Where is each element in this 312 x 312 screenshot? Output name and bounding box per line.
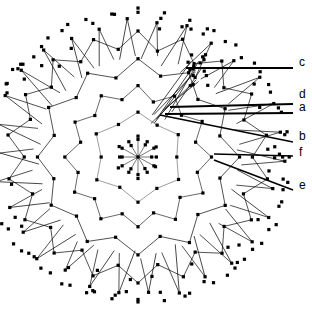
dot-marker [205, 74, 208, 77]
dot-marker [14, 216, 17, 219]
dot-marker [288, 155, 291, 158]
dot-marker [156, 124, 159, 127]
dot-marker [16, 67, 19, 70]
dot-marker [233, 266, 236, 269]
dot-marker [271, 187, 274, 190]
dot-marker [193, 76, 196, 79]
dot-marker [120, 98, 123, 101]
dot-marker [237, 243, 240, 246]
dot-marker [238, 155, 241, 158]
dot-marker [199, 61, 202, 64]
dot-marker [136, 298, 139, 301]
dot-marker [33, 255, 36, 258]
dot-marker [267, 216, 270, 219]
dot-marker [206, 27, 209, 30]
dot-marker [273, 156, 276, 159]
dot-marker [31, 192, 34, 195]
dot-marker [129, 278, 132, 281]
dot-marker [75, 214, 78, 217]
dot-marker [186, 61, 189, 64]
dot-marker [267, 228, 270, 231]
dot-marker [117, 291, 120, 294]
dot-marker [136, 173, 139, 176]
dot-marker [210, 155, 213, 158]
dot-marker [129, 167, 132, 170]
dot-marker [75, 96, 78, 99]
dot-marker [201, 55, 204, 58]
dot-marker [136, 57, 139, 60]
dot-marker [136, 6, 139, 9]
dot-marker [36, 155, 39, 158]
dot-marker [202, 32, 205, 35]
dot-marker [93, 290, 96, 293]
dot-marker [126, 17, 129, 20]
dot-marker [192, 65, 195, 68]
dot-marker [156, 49, 159, 52]
dot-marker [253, 82, 256, 85]
dot-marker [159, 17, 162, 20]
dot-marker [226, 274, 229, 277]
dot-marker [210, 42, 213, 45]
dot-marker [188, 241, 191, 244]
dot-marker [196, 171, 199, 174]
dot-marker [95, 178, 98, 181]
dot-marker [63, 155, 66, 158]
dot-marker [49, 271, 52, 274]
dot-marker [204, 53, 207, 56]
dot-marker [12, 242, 15, 245]
dot-marker [117, 166, 120, 169]
dot-marker [224, 204, 227, 207]
dot-marker [187, 71, 190, 74]
dot-marker [273, 145, 276, 148]
dot-marker [220, 252, 223, 255]
dot-marker [189, 84, 192, 87]
dot-marker [51, 58, 54, 61]
dot-marker [178, 196, 181, 199]
dot-marker [7, 177, 10, 180]
dot-marker [110, 297, 113, 300]
dot-marker [259, 70, 262, 73]
dot-marker [146, 140, 149, 143]
dot-marker [277, 106, 280, 109]
dot-marker [152, 100, 155, 103]
dot-marker [190, 262, 193, 265]
callout-label-a: a [299, 101, 306, 113]
dot-marker [224, 40, 227, 43]
dot-marker [136, 84, 139, 87]
dot-marker [6, 133, 9, 136]
dot-marker [8, 206, 11, 209]
dot-marker [39, 267, 42, 270]
dot-marker [223, 107, 226, 110]
callout-label-e: e [299, 179, 306, 191]
dot-marker [52, 177, 55, 180]
dot-marker [114, 294, 117, 297]
dot-marker [113, 13, 116, 16]
dot-marker [251, 240, 254, 243]
dot-marker [275, 223, 278, 226]
dot-marker [118, 145, 121, 148]
dot-marker [27, 252, 30, 255]
dot-marker [147, 291, 150, 294]
dot-marker [0, 222, 3, 225]
dot-marker [23, 218, 26, 221]
dot-marker [159, 75, 162, 78]
dot-marker [93, 197, 96, 200]
dot-marker [218, 176, 221, 179]
dot-marker [92, 38, 95, 41]
dot-marker [143, 167, 146, 170]
dot-marker [285, 130, 288, 133]
dot-marker [60, 29, 63, 32]
dot-marker [286, 181, 289, 184]
dot-marker [177, 133, 180, 136]
dot-marker [253, 62, 256, 65]
dot-marker [117, 123, 120, 126]
dot-marker [121, 147, 124, 150]
dot-marker [194, 141, 197, 144]
dot-marker [150, 275, 153, 278]
dot-marker [152, 164, 155, 167]
dot-marker [155, 187, 158, 190]
dot-marker [281, 155, 284, 158]
dot-marker [79, 141, 82, 144]
dot-marker [46, 36, 49, 39]
dot-marker [190, 53, 193, 56]
